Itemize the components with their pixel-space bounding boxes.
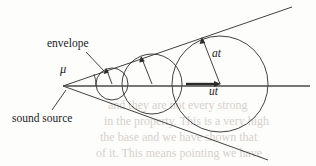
lower-envelope-line <box>63 86 268 160</box>
radius-arrow-medium <box>139 56 152 84</box>
mach-cone-figure: and they are not every strong in the pro… <box>0 0 316 166</box>
envelope-leader-line <box>86 52 104 71</box>
upper-envelope-line <box>63 7 292 86</box>
radius-arrow-large <box>200 37 221 84</box>
sound-source-leader-line <box>52 90 66 110</box>
envelope-label: envelope <box>47 38 89 50</box>
sound-distance-label: at <box>212 48 221 60</box>
mach-angle-label: μ <box>60 63 66 76</box>
mach-angle-arc <box>94 74 96 86</box>
sound-source-label: sound source <box>12 113 72 125</box>
mach-cone-drawing <box>0 0 316 166</box>
source-distance-label: ut <box>209 86 218 98</box>
